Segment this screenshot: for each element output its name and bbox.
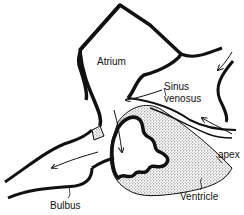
label-bulbus: Bulbus <box>50 200 81 211</box>
label-apex: apex <box>218 149 240 160</box>
heart-diagram <box>0 0 244 215</box>
label-sinus-venosus-line2: venosus <box>164 93 201 104</box>
label-ventricle: Ventricle <box>180 191 218 202</box>
label-atrium: Atrium <box>97 56 126 67</box>
ventricle-shape <box>110 105 232 195</box>
bulbus-shape <box>5 126 114 198</box>
label-sinus-venosus-line1: Sinus <box>164 81 189 92</box>
